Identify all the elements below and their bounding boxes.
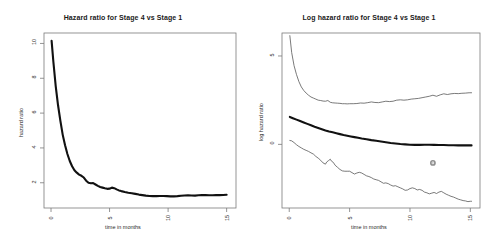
chart-panel-log-hazard-ratio: Log hazard ratio for Stage 4 vs Stage 1 … (246, 0, 492, 249)
x-tick-label: 5 (347, 212, 353, 224)
y-axis-title-right: log hazard ratio (258, 103, 264, 141)
figure-canvas: Hazard ratio for Stage 4 vs Stage 1 time… (0, 0, 492, 249)
y-tick-label: 2 (31, 176, 37, 188)
y-axis-title-left: hazard ratio (18, 107, 24, 136)
x-tick-label: 15 (224, 212, 230, 224)
y-tick-label: 5 (269, 49, 275, 61)
y-tick-label: 8 (31, 71, 37, 83)
y-tick-label: 10 (31, 36, 37, 48)
y-tick-label: 6 (31, 106, 37, 118)
x-tick-label: 5 (107, 212, 113, 224)
series-line (290, 36, 472, 104)
y-tick-label: 0 (269, 137, 275, 149)
series-line (290, 117, 472, 145)
x-tick-label: 10 (165, 212, 171, 224)
x-tick-label: 15 (467, 212, 473, 224)
x-tick-label: 0 (48, 212, 54, 224)
x-axis-title-right: time in months (246, 224, 492, 230)
x-tick-label: 10 (407, 212, 413, 224)
plot-area-right (246, 0, 492, 249)
x-tick-label: 0 (286, 212, 292, 224)
y-tick-label: 4 (31, 141, 37, 153)
outlier-point-center (432, 162, 433, 163)
plot-frame (44, 33, 236, 208)
chart-panel-hazard-ratio: Hazard ratio for Stage 4 vs Stage 1 time… (0, 0, 246, 249)
x-axis-title-left: time in months (0, 224, 246, 230)
series-line (290, 140, 472, 201)
series-line (52, 41, 227, 196)
